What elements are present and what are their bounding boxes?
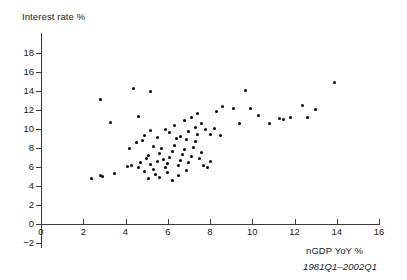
data-point: [160, 147, 163, 150]
data-point: [185, 169, 188, 172]
data-point: [128, 147, 131, 150]
data-point: [137, 115, 140, 118]
y-tick-mark: [36, 91, 41, 92]
data-point: [141, 139, 144, 142]
data-point: [179, 135, 182, 138]
scatter-chart-figure: Interest rate % −2024681012141618 024681…: [0, 0, 407, 280]
y-tick-label-text: 6: [12, 161, 34, 172]
y-tick-label: 8: [8, 142, 34, 153]
y-tick-mark: [36, 72, 41, 73]
y-tick-label-text: 4: [12, 180, 34, 191]
data-point: [168, 131, 171, 134]
data-point: [200, 151, 203, 154]
data-point: [149, 163, 152, 166]
x-tick-mark: [126, 219, 127, 224]
x-tick-label: 14: [325, 226, 349, 237]
y-tick-label: 12: [8, 104, 34, 115]
data-point: [187, 161, 190, 164]
data-point: [206, 166, 209, 169]
x-tick-mark: [295, 219, 296, 224]
data-point: [130, 164, 133, 167]
data-point: [156, 136, 159, 139]
data-point: [143, 134, 146, 137]
x-tick-mark: [168, 219, 169, 224]
y-tick-label-text: 10: [12, 123, 34, 134]
data-point: [196, 133, 199, 136]
data-point: [202, 164, 205, 167]
data-point: [268, 122, 271, 125]
x-tick-label: 6: [156, 226, 180, 237]
data-point: [190, 155, 193, 158]
data-point: [147, 177, 150, 180]
y-tick-label-text: 16: [12, 66, 34, 77]
data-point: [156, 160, 159, 163]
data-point: [99, 98, 102, 101]
y-tick-label-text: 18: [12, 47, 34, 58]
data-point: [289, 116, 292, 119]
x-tick-mark: [252, 219, 253, 224]
data-point: [244, 89, 247, 92]
data-point: [194, 126, 197, 129]
x-tick-mark: [210, 219, 211, 224]
y-tick-label: 10: [8, 123, 34, 134]
x-tick-label: 4: [114, 226, 138, 237]
data-point: [198, 157, 201, 160]
data-point: [209, 160, 212, 163]
data-point: [215, 110, 218, 113]
y-tick-label: −2: [8, 237, 34, 248]
data-point: [152, 168, 155, 171]
data-point: [171, 150, 174, 153]
y-tick-mark: [36, 53, 41, 54]
data-point: [238, 122, 241, 125]
data-point: [113, 172, 116, 175]
data-point: [333, 81, 336, 84]
data-point: [135, 141, 138, 144]
chart-caption: 1981Q1–2002Q1: [303, 261, 377, 272]
data-point: [168, 156, 171, 159]
data-point: [301, 104, 304, 107]
data-point: [149, 129, 152, 132]
y-tick-mark: [36, 167, 41, 168]
data-point: [126, 165, 129, 168]
data-point: [204, 128, 207, 131]
data-point: [145, 157, 148, 160]
y-tick-label: 18: [8, 47, 34, 58]
data-point: [177, 174, 180, 177]
data-point: [183, 119, 186, 122]
data-point: [152, 145, 155, 148]
data-point: [221, 105, 224, 108]
x-tick-label: 8: [198, 226, 222, 237]
data-point: [162, 158, 165, 161]
plot-area: −2024681012141618 0246810121416: [0, 0, 407, 280]
x-tick-label: 2: [71, 226, 95, 237]
y-tick-label: 16: [8, 66, 34, 77]
x-tick-label: 0: [29, 226, 53, 237]
y-tick-label: 14: [8, 85, 34, 96]
data-point: [90, 177, 93, 180]
data-point: [187, 130, 190, 133]
data-point: [173, 144, 176, 147]
x-tick-label: 10: [240, 226, 264, 237]
data-point: [171, 179, 174, 182]
x-tick-mark: [379, 219, 380, 224]
data-point: [132, 87, 135, 90]
data-point: [166, 171, 169, 174]
x-axis-line: [41, 224, 380, 225]
data-point: [278, 117, 281, 120]
x-tick-mark: [83, 219, 84, 224]
data-point: [164, 166, 167, 169]
data-point: [185, 138, 188, 141]
y-axis-line: [41, 33, 42, 224]
data-point: [179, 159, 182, 162]
data-point: [190, 116, 193, 119]
data-point: [194, 140, 197, 143]
data-point: [181, 153, 184, 156]
y-tick-mark: [36, 205, 41, 206]
y-tick-mark: [36, 148, 41, 149]
data-point: [200, 122, 203, 125]
y-tick-label-text: 14: [12, 85, 34, 96]
data-point: [232, 107, 235, 110]
data-point: [209, 133, 212, 136]
y-tick-label-text: 8: [12, 142, 34, 153]
data-point: [164, 128, 167, 131]
